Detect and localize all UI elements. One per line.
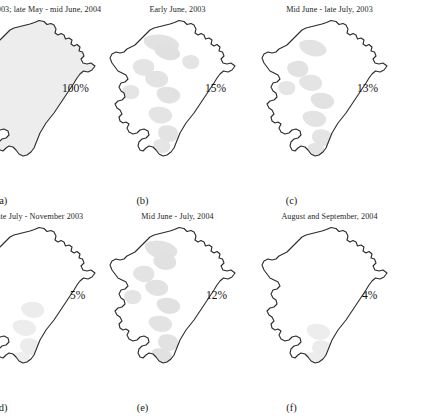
county-outline-e (104, 223, 251, 391)
panel-f-caption: August and September, 2004 (256, 211, 403, 222)
panel-b-percent: 15% (205, 82, 226, 94)
panel-c-letter: (c) (218, 195, 365, 206)
texture-patches-c (278, 40, 334, 157)
texture-patches-b (122, 34, 199, 153)
county-outline-b (104, 16, 251, 184)
figure-panel-grid: May, 2003; late May - mid June, 2004 100… (0, 0, 441, 418)
panel-e-percent: 12% (206, 289, 227, 301)
panel-b: Early June, 2003 (104, 2, 251, 211)
county-outline-f (256, 223, 403, 391)
panel-b-map (104, 16, 251, 184)
panel-e-caption: Mid June - July, 2004 (104, 211, 251, 222)
county-outline-d (0, 223, 111, 391)
panel-d-percent: 5% (70, 289, 85, 301)
texture-patches-f (297, 324, 332, 376)
panel-c-percent: 13% (357, 82, 378, 94)
panel-c-map (256, 16, 403, 184)
panel-d-caption: Late July - November 2003 (0, 211, 111, 222)
panel-a-caption: May, 2003; late May - mid June, 2004 (0, 4, 111, 15)
county-outline-c (256, 16, 403, 184)
panel-f-map (256, 223, 403, 391)
panel-d-map (0, 223, 111, 391)
county-outline-a (0, 16, 111, 184)
panel-d-letter: (d) (0, 402, 75, 413)
panel-a-map (0, 16, 111, 184)
panel-f-letter: (f) (218, 402, 365, 413)
panel-b-caption: Early June, 2003 (104, 4, 251, 15)
texture-patches-d (13, 302, 45, 366)
panel-a-percent: 100% (62, 82, 89, 94)
panel-c: Mid June - late July, 2003 (256, 2, 403, 211)
panel-e-letter: (e) (69, 402, 216, 413)
panel-f: August and September, 2004 4% (f) (256, 209, 403, 418)
panel-a: May, 2003; late May - mid June, 2004 100… (0, 2, 111, 211)
panel-a-letter: (a) (0, 195, 75, 206)
panel-d: Late July - November 2003 5% (d) (0, 209, 111, 418)
panel-e-map (104, 223, 251, 391)
panel-c-caption: Mid June - late July, 2003 (256, 4, 403, 15)
panel-e: Mid June - July, 2004 (104, 209, 251, 418)
panel-b-letter: (b) (69, 195, 216, 206)
panel-f-percent: 4% (362, 289, 377, 301)
